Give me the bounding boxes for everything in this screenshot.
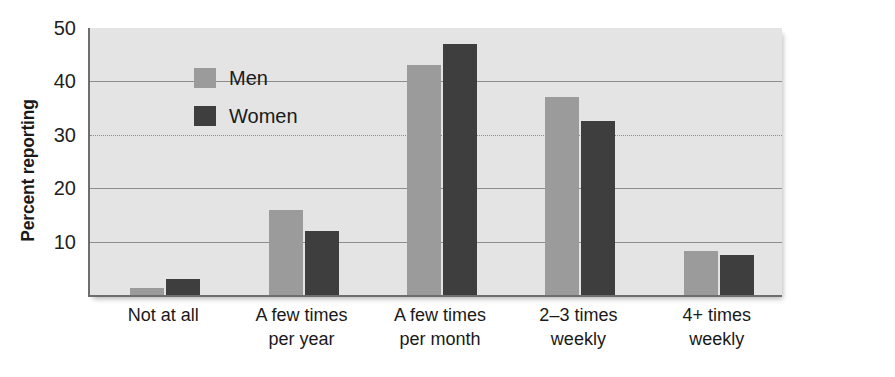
- bar-women-4: [720, 255, 754, 295]
- bar-chart-figure: Percent reporting 1020304050 Men Women N…: [0, 0, 895, 377]
- bar-men-1: [269, 210, 303, 295]
- x-tick-line: per month: [394, 327, 486, 351]
- legend-swatch-women-icon: [194, 106, 216, 126]
- x-tick-label-4: 4+ timesweekly: [683, 303, 752, 352]
- legend-swatch-men-icon: [194, 68, 216, 88]
- x-tick-line: Not at all: [128, 303, 199, 327]
- bar-group: [684, 28, 754, 295]
- legend-label-men: Men: [229, 68, 268, 88]
- bar-women-1: [305, 231, 339, 295]
- legend: Men Women: [194, 68, 298, 144]
- bar-women-0: [166, 279, 200, 295]
- legend-item-women: Women: [194, 106, 298, 126]
- y-tick-label-40: 40: [54, 71, 76, 91]
- bar-men-2: [407, 65, 441, 295]
- legend-label-women: Women: [229, 106, 298, 126]
- x-tick-line: weekly: [683, 327, 752, 351]
- y-tick-label-30: 30: [54, 125, 76, 145]
- bar-women-2: [443, 44, 477, 295]
- x-tick-label-2: A few timesper month: [394, 303, 486, 352]
- x-tick-line: A few times: [394, 303, 486, 327]
- y-tick-label-10: 10: [54, 232, 76, 252]
- bar-men-0: [130, 288, 164, 295]
- bar-men-4: [684, 251, 718, 295]
- x-tick-label-0: Not at all: [128, 303, 199, 327]
- y-axis-tick-labels: 1020304050: [0, 0, 86, 377]
- bar-group: [407, 28, 477, 295]
- legend-item-men: Men: [194, 68, 298, 88]
- plot-area: Men Women: [88, 28, 782, 297]
- x-tick-line: weekly: [539, 327, 617, 351]
- x-tick-line: A few times: [256, 303, 348, 327]
- y-tick-label-20: 20: [54, 178, 76, 198]
- y-tick-label-50: 50: [54, 18, 76, 38]
- bar-women-3: [581, 121, 615, 295]
- x-tick-line: 4+ times: [683, 303, 752, 327]
- x-tick-line: per year: [256, 327, 348, 351]
- x-tick-label-3: 2–3 timesweekly: [539, 303, 617, 352]
- x-tick-line: 2–3 times: [539, 303, 617, 327]
- bar-group: [130, 28, 200, 295]
- x-axis-tick-labels: Not at allA few timesper yearA few times…: [88, 303, 780, 373]
- bar-men-3: [545, 97, 579, 295]
- bar-group: [545, 28, 615, 295]
- x-tick-label-1: A few timesper year: [256, 303, 348, 352]
